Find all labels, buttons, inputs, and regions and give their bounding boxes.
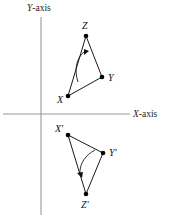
triangle-xyz [68, 36, 102, 96]
vertex-z-prime-dot [84, 192, 89, 197]
rotation-arrowhead-lower [77, 172, 83, 178]
rotation-arc-lower [80, 150, 95, 175]
vertex-label-z-prime-text: Z′ [81, 199, 89, 210]
vertex-label-y-prime-text: Y′ [109, 147, 117, 158]
geometry-figure: Y-axis X-axis Z Y X X′ Y′ Z′ [0, 0, 169, 219]
triangle-xyz-prime [68, 135, 103, 194]
x-axis-label-rest: -axis [139, 109, 157, 119]
vertex-z-dot [84, 34, 89, 39]
rotation-arrowhead-upper [84, 49, 89, 55]
vertex-y-prime-dot [101, 151, 106, 156]
y-axis-label-rest: -axis [32, 3, 50, 13]
vertex-label-y-prime: Y′ [109, 148, 117, 158]
vertex-label-z: Z [82, 21, 88, 31]
vertex-label-x-prime-text: X′ [55, 123, 63, 134]
vertex-label-z-text: Z [82, 20, 88, 31]
y-axis-label: Y-axis [27, 4, 51, 14]
vertex-x-dot [66, 94, 71, 99]
vertex-y-dot [100, 75, 105, 80]
vertex-label-x: X [57, 95, 63, 105]
x-axis-label: X-axis [133, 110, 157, 120]
vertex-label-y: Y [108, 73, 114, 83]
vertex-label-z-prime: Z′ [81, 200, 89, 210]
vertex-x-prime-dot [66, 133, 71, 138]
vertex-label-y-text: Y [108, 72, 114, 83]
rotation-arc-upper [76, 51, 85, 82]
vertex-label-x-prime: X′ [55, 124, 63, 134]
vertex-label-x-text: X [57, 94, 63, 105]
